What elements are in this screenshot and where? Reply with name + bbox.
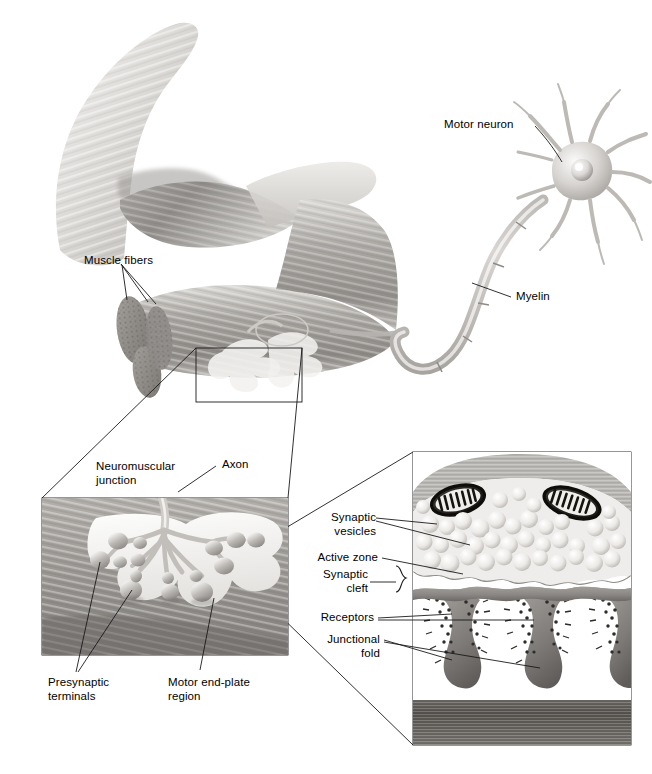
- leader-muscle-fibers-a: [121, 264, 148, 302]
- label-axon: Axon: [222, 458, 249, 472]
- sarcomere-striations: [413, 700, 631, 745]
- label-muscle-fibers: Muscle fibers: [84, 254, 153, 268]
- label-synaptic-cleft: Synaptic cleft: [298, 568, 368, 595]
- label-myelin: Myelin: [516, 290, 550, 304]
- leader-axon: [178, 466, 216, 492]
- neuron-nucleus: [571, 159, 593, 181]
- label-active-zone: Active zone: [298, 551, 378, 565]
- inset-right-artwork: [413, 452, 631, 745]
- label-motor-end-plate-region: Motor end-plate region: [168, 676, 250, 703]
- label-presynaptic-terminals: Presynaptic terminals: [48, 676, 109, 703]
- label-junctional-fold: Junctional fold: [298, 633, 380, 660]
- label-synaptic-vesicles: Synaptic vesicles: [298, 511, 376, 538]
- motor-neuron-illustration: [395, 84, 650, 372]
- junctional-folds: [413, 587, 631, 702]
- label-receptors: Receptors: [298, 611, 374, 625]
- arm-illustration: [56, 23, 404, 400]
- label-motor-neuron: Motor neuron: [444, 118, 514, 132]
- cleft-bracket: [396, 566, 406, 592]
- figure-canvas: Motor neuron Myelin Muscle fibers Neurom…: [0, 0, 652, 774]
- label-neuromuscular-junction: Neuromuscular junction: [96, 460, 175, 487]
- inset-left-artwork: [42, 498, 288, 655]
